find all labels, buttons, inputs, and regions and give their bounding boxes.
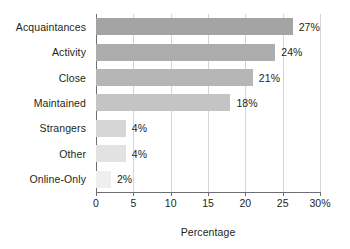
- x-tick-label: 25: [277, 197, 289, 209]
- x-tick-mark: [283, 192, 284, 196]
- category-label: Maintained: [34, 97, 86, 109]
- x-tick-mark: [245, 192, 246, 196]
- bar-value-label: 27%: [299, 21, 320, 33]
- bar-chart: AcquaintancesActivityCloseMaintainedStra…: [0, 0, 350, 249]
- bar-row: 4%: [96, 116, 320, 141]
- bar-row: 24%: [96, 39, 320, 64]
- x-tick-label: 30%: [309, 197, 330, 209]
- x-tick-label: 0: [93, 197, 99, 209]
- category-label-cell: Acquaintances: [0, 14, 92, 39]
- bar-row: 21%: [96, 65, 320, 90]
- category-label-cell: Online-Only: [0, 167, 92, 192]
- bar-value-label: 2%: [117, 173, 132, 185]
- x-tick-mark: [96, 192, 97, 196]
- category-label: Close: [59, 72, 86, 84]
- bar: [96, 171, 111, 188]
- bar-row: 2%: [96, 167, 320, 192]
- bar: [96, 120, 126, 137]
- x-tick-label: 15: [202, 197, 214, 209]
- bar: [96, 69, 253, 86]
- category-label: Acquaintances: [16, 21, 86, 33]
- x-tick-mark: [133, 192, 134, 196]
- category-label-cell: Activity: [0, 39, 92, 64]
- x-axis-ticks: 051015202530%: [96, 192, 320, 208]
- x-tick-label: 20: [239, 197, 251, 209]
- x-tick-mark: [320, 192, 321, 196]
- bar-value-label: 4%: [132, 122, 147, 134]
- category-label-cell: Close: [0, 65, 92, 90]
- plot-area: 27%24%21%18%4%4%2%: [96, 14, 320, 192]
- category-label: Strangers: [40, 122, 86, 134]
- bar-value-label: 24%: [281, 46, 302, 58]
- bar: [96, 18, 293, 35]
- category-label: Other: [59, 148, 86, 160]
- category-label-cell: Maintained: [0, 90, 92, 115]
- category-label-cell: Strangers: [0, 116, 92, 141]
- bar: [96, 94, 230, 111]
- bar: [96, 145, 126, 162]
- bar-row: 4%: [96, 141, 320, 166]
- category-label: Activity: [52, 46, 86, 58]
- gridline: [320, 14, 321, 192]
- category-label: Online-Only: [29, 173, 86, 185]
- x-tick-label: 10: [165, 197, 177, 209]
- bar-value-label: 21%: [259, 72, 280, 84]
- bar-row: 18%: [96, 90, 320, 115]
- x-tick-mark: [208, 192, 209, 196]
- bar-value-label: 18%: [236, 97, 257, 109]
- bar-value-label: 4%: [132, 148, 147, 160]
- category-label-cell: Other: [0, 141, 92, 166]
- x-tick-label: 5: [130, 197, 136, 209]
- bar-row: 27%: [96, 14, 320, 39]
- category-axis-labels: AcquaintancesActivityCloseMaintainedStra…: [0, 14, 92, 192]
- x-axis-title: Percentage: [96, 226, 320, 238]
- bar-series: 27%24%21%18%4%4%2%: [96, 14, 320, 192]
- x-tick-mark: [171, 192, 172, 196]
- bar: [96, 44, 275, 61]
